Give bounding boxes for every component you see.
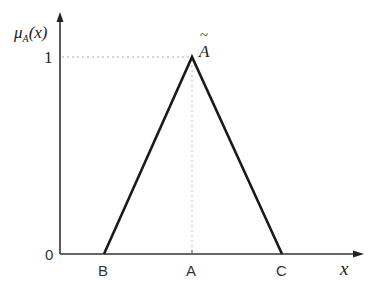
peak-label: A bbox=[198, 42, 210, 61]
x-tick-c: C bbox=[276, 262, 287, 279]
x-tick-a: A bbox=[186, 262, 196, 279]
y-axis-arrow-icon bbox=[57, 12, 64, 22]
peak-label-tilde: ~ bbox=[200, 27, 208, 43]
x-tick-b: B bbox=[98, 262, 108, 279]
x-axis-arrow-icon bbox=[353, 251, 364, 258]
fuzzy-number-diagram: μA(x) 1 0 ~ A B A C x bbox=[0, 0, 389, 290]
y-axis-label: μA(x) bbox=[13, 23, 48, 44]
x-axis-label: x bbox=[339, 258, 349, 279]
y-tick-0: 0 bbox=[45, 246, 53, 263]
membership-triangle bbox=[104, 57, 282, 254]
y-tick-1: 1 bbox=[44, 48, 53, 67]
